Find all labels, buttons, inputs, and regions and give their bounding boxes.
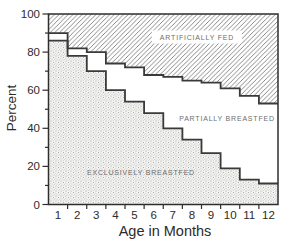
svg-text:80: 80: [27, 46, 40, 58]
svg-text:0: 0: [34, 199, 40, 211]
svg-text:6: 6: [150, 209, 156, 221]
breastfeeding-chart-figure: 123456789101112020406080100 ARTIFICIALLY…: [0, 0, 297, 249]
svg-text:100: 100: [21, 8, 40, 20]
y-axis-title: Percent: [4, 85, 19, 132]
svg-text:1: 1: [55, 209, 61, 221]
artificially-fed-label: ARTIFICIALLY FED: [152, 31, 242, 44]
x-axis-title: Age in Months: [119, 223, 212, 239]
svg-text:5: 5: [131, 209, 137, 221]
svg-text:8: 8: [189, 209, 195, 221]
svg-text:60: 60: [27, 84, 40, 96]
svg-text:4: 4: [112, 209, 119, 221]
svg-text:7: 7: [170, 209, 176, 221]
svg-text:2: 2: [74, 209, 80, 221]
svg-text:3: 3: [93, 209, 99, 221]
y-tick-labels: 020406080100: [21, 8, 40, 211]
svg-text:20: 20: [27, 160, 40, 172]
x-tick-labels: 123456789101112: [55, 209, 275, 221]
svg-text:40: 40: [27, 122, 40, 134]
svg-text:12: 12: [262, 209, 275, 221]
partially-breastfed-label: PARTIALLY BREASTFED: [179, 115, 275, 122]
breastfeeding-step-chart: 123456789101112020406080100: [0, 0, 297, 249]
exclusively-breastfed-label: EXCLUSIVELY BREASTFED: [87, 169, 195, 176]
svg-text:11: 11: [243, 209, 255, 221]
svg-text:9: 9: [208, 209, 214, 221]
svg-text:10: 10: [224, 209, 237, 221]
